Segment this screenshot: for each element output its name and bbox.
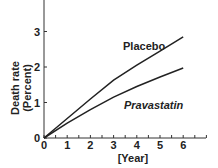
x-tick-label: 2 — [87, 139, 93, 151]
series-lines — [44, 37, 183, 138]
x-tick-label: 4 — [134, 139, 141, 151]
chart-container: 01234560123 Placebo Pravastatin [Year] D… — [0, 0, 218, 168]
x-tick-label: 5 — [157, 139, 163, 151]
x-tick-label: 0 — [41, 139, 47, 151]
x-tick-label: 3 — [111, 139, 117, 151]
y-tick-label: 1 — [34, 97, 40, 109]
series-label-pravastatin: Pravastatin — [124, 99, 184, 111]
x-tick-label: 1 — [64, 139, 70, 151]
y-tick-label: 2 — [34, 61, 40, 73]
series-label-placebo: Placebo — [123, 40, 165, 52]
x-axis-label: [Year] — [118, 152, 149, 164]
y-tick-label: 0 — [34, 132, 40, 144]
y-axis-label-line1: Death rate — [9, 61, 21, 115]
line-chart: 01234560123 Placebo Pravastatin [Year] D… — [0, 0, 218, 168]
y-axis-label-line2: (Percent) — [21, 64, 33, 112]
x-tick-label: 6 — [180, 139, 186, 151]
y-tick-label: 3 — [34, 26, 40, 38]
series-line-placebo — [44, 37, 183, 138]
